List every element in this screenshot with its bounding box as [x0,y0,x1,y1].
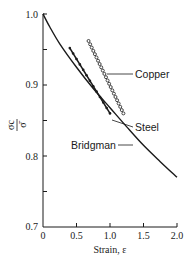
series-layer [43,14,177,177]
copper-marker [101,69,104,72]
copper-marker [90,46,93,49]
copper-marker [100,66,103,69]
x-tick-2.0: 2.0 [171,230,184,241]
series-steel [69,47,112,115]
copper-marker [109,86,112,89]
y-tick-labels: 0.7 0.8 0.9 1.0 [26,9,39,232]
copper-marker [114,95,117,98]
copper-marker [89,43,92,46]
copper-marker [93,53,96,56]
steel-marker [82,69,85,72]
y-tick-0.7: 0.7 [26,221,39,232]
steel-marker [109,112,112,115]
steel-marker [72,52,75,55]
x-tick-labels: 0 0.5 1.0 1.5 2.0 [41,230,184,241]
copper-marker [112,92,115,95]
x-tick-0: 0 [41,230,46,241]
series-bridgman [43,14,177,177]
copper-marker [104,76,107,79]
y-tick-0.8: 0.8 [26,151,39,162]
copper-marker [98,63,101,66]
steel-marker [102,101,105,104]
steel-marker [95,90,98,93]
y-tick-0.9: 0.9 [26,79,39,90]
copper-marker [119,105,122,108]
steel-marker [85,74,88,77]
y-axis-title-denominator: σ̄ [17,120,28,127]
y-axis-title-numerator: σc [5,120,16,130]
steel-marker [92,85,95,88]
copper-marker [106,79,109,82]
copper-marker [117,102,120,105]
y-axis-title: σc σ̄ [5,119,28,131]
steel-marker [89,79,92,82]
copper-marker [103,72,106,75]
copper-marker [120,109,123,112]
steel-marker [69,47,72,50]
x-axis-title: Strain, ε [93,244,126,255]
copper-marker [111,89,114,92]
copper-marker [97,59,100,62]
copper-marker [87,39,90,42]
steel-label: Steel [135,121,159,133]
copper-marker [92,49,95,52]
copper-label: Copper [135,68,170,80]
steel-marker [75,58,78,61]
steel-marker [99,96,102,99]
copper-marker [108,82,111,85]
bridgman-label: Bridgman [71,139,116,151]
x-tick-1.5: 1.5 [137,230,150,241]
copper-marker [95,56,98,59]
x-tick-1.0: 1.0 [104,230,117,241]
copper-marker [122,112,125,115]
y-tick-1.0: 1.0 [26,9,39,20]
steel-marker [105,107,108,110]
chart: 0.7 0.8 0.9 1.0 0 0.5 1.0 1.5 2.0 Strain… [0,0,191,263]
x-tick-0.5: 0.5 [70,230,83,241]
copper-marker [116,99,119,102]
steel-marker [79,63,82,66]
bridgman-curve [43,14,177,177]
